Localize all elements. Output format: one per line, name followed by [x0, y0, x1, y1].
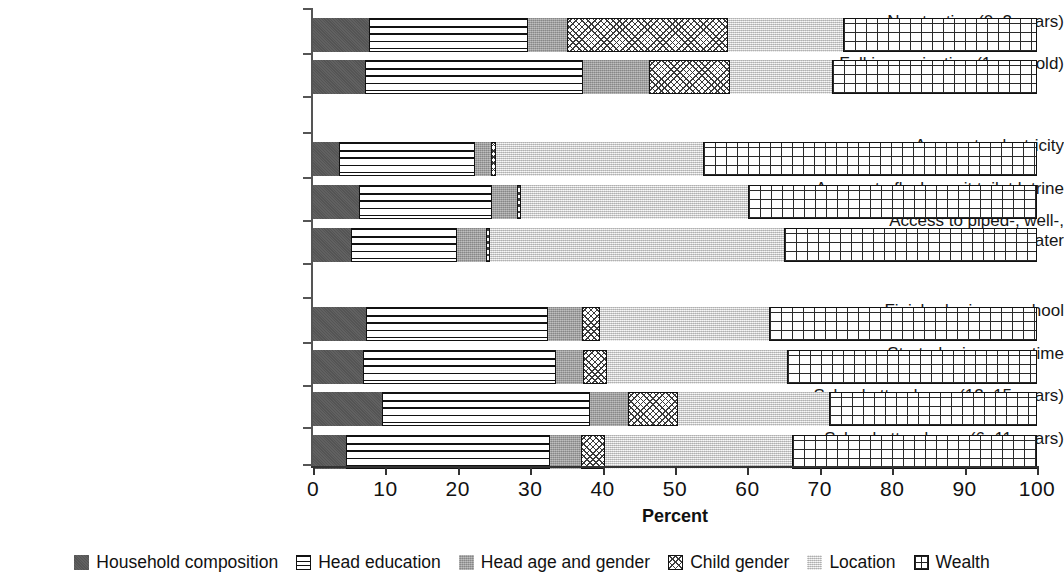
segment-head-age-and-gender: [457, 228, 486, 262]
segment-household-composition: [313, 18, 369, 52]
x-tick-label: 10: [373, 477, 397, 501]
y-tick: [303, 427, 311, 429]
segment-wealth: [769, 307, 1037, 341]
x-tick-label: 100: [1019, 477, 1056, 501]
segment-child-gender: [649, 60, 730, 94]
segment-child-gender: [628, 392, 678, 426]
household-swatch: [74, 555, 89, 570]
y-tick: [303, 385, 311, 387]
x-tick-label: 40: [590, 477, 614, 501]
segment-head-education: [351, 228, 457, 262]
legend-item[interactable]: Location: [807, 552, 895, 573]
segment-location: [678, 392, 829, 426]
y-tick: [303, 177, 311, 179]
segment-child-gender: [582, 307, 599, 341]
x-tick: [385, 466, 387, 475]
y-tick: [303, 220, 311, 222]
x-tick-label: 0: [307, 477, 319, 501]
segment-location: [730, 60, 832, 94]
bar-row: [313, 435, 1037, 469]
segment-head-age-and-gender: [556, 350, 583, 384]
segment-head-age-and-gender: [475, 142, 491, 176]
segment-location: [490, 228, 784, 262]
bar-row: [313, 228, 1037, 262]
x-axis: 0102030405060708090100: [311, 466, 1039, 468]
bar-row: [313, 392, 1037, 426]
segment-household-composition: [313, 435, 346, 469]
segment-head-age-and-gender: [492, 185, 517, 219]
segment-household-composition: [313, 350, 363, 384]
segment-head-education: [366, 307, 548, 341]
segment-wealth: [784, 228, 1037, 262]
legend-label: Wealth: [936, 552, 990, 573]
segment-household-composition: [313, 228, 351, 262]
y-tick: [303, 464, 311, 466]
legend-label: Child gender: [690, 552, 789, 573]
segment-location: [600, 307, 769, 341]
x-tick: [892, 466, 894, 475]
segment-household-composition: [313, 60, 365, 94]
y-tick: [303, 96, 311, 98]
segment-location: [521, 185, 748, 219]
x-tick-label: 70: [808, 477, 832, 501]
y-tick: [303, 342, 311, 344]
segment-household-composition: [313, 142, 339, 176]
x-tick: [965, 466, 967, 475]
bar-row: [313, 185, 1037, 219]
bar-row: [313, 60, 1037, 94]
segment-head-education: [363, 350, 556, 384]
segment-head-education: [346, 435, 549, 469]
segment-household-composition: [313, 307, 366, 341]
segment-child-gender: [581, 435, 605, 469]
segment-household-composition: [313, 392, 382, 426]
segment-head-age-and-gender: [528, 18, 567, 52]
x-tick-label: 90: [952, 477, 976, 501]
segment-child-gender: [567, 18, 728, 52]
stacked-bar-chart: No stunting (0–2 years) Full immunizatio…: [0, 0, 1064, 585]
legend-item[interactable]: Wealth: [914, 552, 990, 573]
x-tick: [603, 466, 605, 475]
y-tick: [303, 297, 311, 299]
head-education-swatch: [296, 555, 311, 570]
x-tick-label: 60: [735, 477, 759, 501]
head-age-gender-swatch: [459, 555, 474, 570]
segment-head-education: [365, 60, 583, 94]
segment-head-education: [369, 18, 528, 52]
bar-row: [313, 350, 1037, 384]
x-tick: [747, 466, 749, 475]
bar-row: [313, 18, 1037, 52]
x-tick: [1037, 466, 1039, 475]
wealth-swatch: [914, 555, 929, 570]
legend-label: Head education: [318, 552, 441, 573]
child-gender-swatch: [668, 555, 683, 570]
y-tick: [303, 53, 311, 55]
legend-label: Head age and gender: [481, 552, 650, 573]
legend-item[interactable]: Head education: [296, 552, 441, 573]
y-tick: [303, 8, 311, 10]
segment-wealth: [792, 435, 1037, 469]
legend-item[interactable]: Household composition: [74, 552, 278, 573]
segment-head-age-and-gender: [590, 392, 628, 426]
segment-wealth: [843, 18, 1037, 52]
segment-location: [605, 435, 792, 469]
location-swatch: [807, 555, 822, 570]
x-tick-label: 50: [663, 477, 687, 501]
bar-row: [313, 307, 1037, 341]
legend-item[interactable]: Child gender: [668, 552, 789, 573]
segment-location: [728, 18, 843, 52]
segment-wealth: [832, 60, 1037, 94]
segment-location: [607, 350, 787, 384]
x-tick-label: 80: [880, 477, 904, 501]
bar-row: [313, 142, 1037, 176]
x-tick: [458, 466, 460, 475]
x-axis-title: Percent: [313, 506, 1037, 527]
segment-location: [496, 142, 703, 176]
x-tick-label: 30: [518, 477, 542, 501]
segment-wealth: [703, 142, 1037, 176]
segment-head-age-and-gender: [550, 435, 581, 469]
segment-head-age-and-gender: [548, 307, 582, 341]
legend-item[interactable]: Head age and gender: [459, 552, 650, 573]
x-tick: [820, 466, 822, 475]
legend-label: Household composition: [96, 552, 278, 573]
segment-head-education: [382, 392, 591, 426]
